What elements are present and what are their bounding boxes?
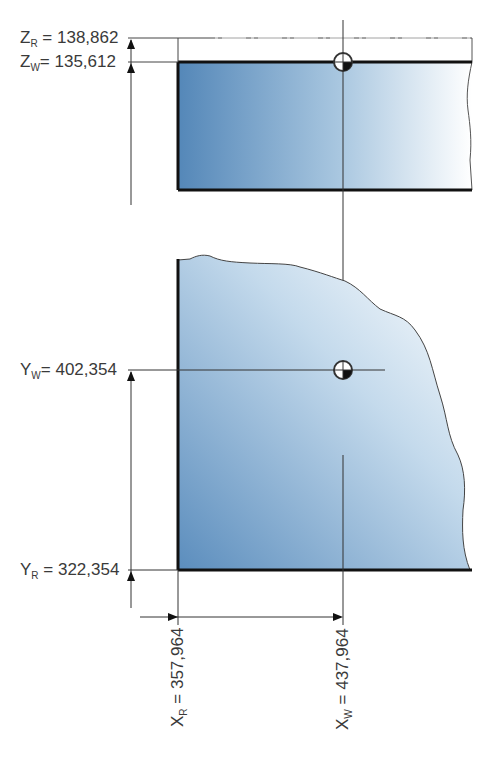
label-y-w: YW= 402,354 xyxy=(20,360,117,381)
workpiece-top-fill xyxy=(178,255,470,570)
arrow-xr xyxy=(168,613,178,621)
technical-drawing: ZR = 138,862 ZW= 135,612 YW= 402,354 YR … xyxy=(0,0,495,759)
label-x-w: XW = 437,964 xyxy=(333,628,354,730)
label-z-w: ZW= 135,612 xyxy=(20,52,116,73)
label-y-r: YR = 322,354 xyxy=(20,560,119,581)
arrow-yr xyxy=(127,571,135,581)
workpiece-side-fill xyxy=(178,62,472,190)
label-z-r: ZR = 138,862 xyxy=(20,28,118,49)
arrow-xw xyxy=(333,613,343,621)
arrow-yw xyxy=(127,371,135,381)
datum-symbol-bottom xyxy=(334,361,352,379)
label-x-r: XR = 357,964 xyxy=(168,628,189,727)
arrow-zw xyxy=(127,63,135,73)
datum-symbol-top xyxy=(334,53,352,71)
arrow-zr xyxy=(127,39,135,49)
top-view: YW= 402,354 YR = 322,354 XR = 357,964 XW… xyxy=(20,255,472,730)
